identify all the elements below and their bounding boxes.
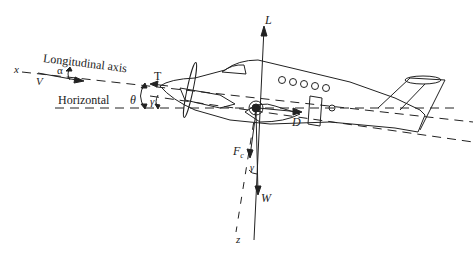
- gamma-nose-label: γ: [150, 96, 154, 107]
- z-axis-label: z: [236, 234, 240, 245]
- vertical-tail: [378, 78, 445, 130]
- horizontal-label: Horizontal: [58, 94, 109, 106]
- cabin-window: [312, 83, 319, 90]
- cabin-window: [301, 81, 308, 88]
- diagram-canvas: [0, 0, 473, 253]
- cabin-window: [290, 79, 297, 86]
- centrifugal-force-label: Fc: [233, 145, 244, 160]
- thrust-label: T: [154, 70, 161, 82]
- lift-label: L: [265, 14, 272, 26]
- cabin-window: [323, 85, 330, 92]
- aircraft-force-diagram: Longitudinal axis Horizontal x V α θ γ T…: [0, 0, 473, 253]
- x-axis-label: x: [14, 64, 19, 75]
- cockpit-window: [222, 65, 246, 74]
- weight-label: W: [261, 192, 271, 204]
- cabin-window: [279, 77, 286, 84]
- drag-label: D: [292, 116, 301, 128]
- cabin-door: [308, 96, 322, 126]
- centrifugal-force-subscript: c: [240, 151, 244, 160]
- theta-label: θ: [130, 94, 136, 106]
- velocity-label: V: [36, 76, 43, 87]
- engine-nacelle: [180, 88, 235, 108]
- alpha-label: α: [57, 65, 63, 76]
- horizontal-stabilizer: [405, 76, 441, 84]
- gamma-weight-label: γ: [250, 163, 254, 173]
